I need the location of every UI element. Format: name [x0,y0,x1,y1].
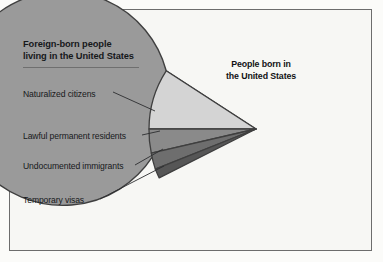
page-title: Foreign-born people living in the United… [23,38,161,63]
callout-label-undocumented-immigrants: Undocumented immigrants [23,161,123,171]
pie-slice-people-born-in-the-united-states[interactable] [0,0,256,205]
chart-figure: Foreign-born people living in the United… [0,0,383,262]
callout-label-temporary-visas: Temporary visas [23,195,84,205]
title-divider [23,67,139,69]
callout-label-naturalized-citizens: Naturalized citizens [23,89,96,99]
chart-title-block: Foreign-born people living in the United… [23,38,161,68]
callout-label-lawful-permanent-residents: Lawful permanent residents [23,131,126,141]
pie-slice-label-people-born-in-the-united-states: People born in the United States [197,59,325,82]
